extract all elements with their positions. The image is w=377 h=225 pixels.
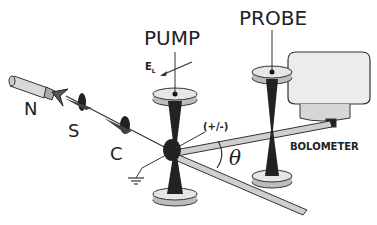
- field-label: EL: [145, 62, 156, 74]
- bolometer-label: BOLOMETER: [290, 142, 359, 152]
- field-symbol: E: [145, 61, 152, 72]
- target-icon: [163, 139, 181, 161]
- pump-label: PUMP: [144, 28, 200, 48]
- probe-beam: [266, 79, 278, 130]
- probe-label: PROBE: [239, 8, 307, 28]
- field-subscript: L: [152, 67, 156, 74]
- angle-label: θ: [229, 148, 241, 168]
- ground-icon: [128, 155, 166, 184]
- experimental-setup-diagram: PUMP PROBE EL N S C (+/-) θ BOLOMETER: [0, 0, 377, 225]
- bolometer-icon: [288, 52, 370, 127]
- sample-label-s: S: [68, 122, 79, 140]
- source-label-n: N: [24, 100, 37, 118]
- collector-label-c: C: [110, 145, 123, 163]
- polarity-label: (+/-): [203, 122, 228, 132]
- needle-source-icon: [9, 76, 68, 106]
